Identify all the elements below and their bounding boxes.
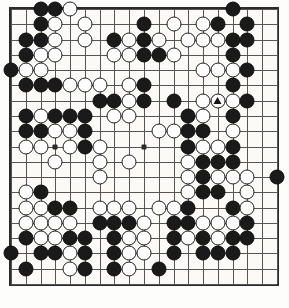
- white-stone[interactable]: [63, 246, 78, 261]
- black-stone[interactable]: [196, 246, 211, 261]
- white-stone[interactable]: [225, 124, 240, 139]
- black-stone[interactable]: [240, 215, 255, 230]
- black-stone[interactable]: [181, 108, 196, 123]
- black-stone[interactable]: [240, 63, 255, 78]
- black-stone[interactable]: [107, 261, 122, 276]
- black-stone[interactable]: [137, 17, 152, 32]
- white-stone[interactable]: [122, 231, 137, 246]
- black-stone[interactable]: [18, 47, 33, 62]
- white-stone[interactable]: [210, 32, 225, 47]
- black-stone[interactable]: [137, 93, 152, 108]
- black-stone[interactable]: [151, 47, 166, 62]
- white-stone[interactable]: [196, 215, 211, 230]
- white-stone[interactable]: [33, 215, 48, 230]
- black-stone[interactable]: [181, 139, 196, 154]
- white-stone[interactable]: [18, 215, 33, 230]
- black-stone[interactable]: [48, 2, 63, 17]
- white-stone[interactable]: [151, 200, 166, 215]
- black-stone[interactable]: [196, 154, 211, 169]
- black-stone[interactable]: [122, 215, 137, 230]
- white-stone[interactable]: [137, 215, 152, 230]
- black-stone[interactable]: [240, 231, 255, 246]
- white-stone[interactable]: [63, 215, 78, 230]
- black-stone[interactable]: [33, 78, 48, 93]
- black-stone[interactable]: [137, 32, 152, 47]
- white-stone[interactable]: [122, 108, 137, 123]
- black-stone[interactable]: [18, 78, 33, 93]
- white-stone[interactable]: [77, 32, 92, 47]
- white-stone[interactable]: [210, 139, 225, 154]
- black-stone[interactable]: [166, 215, 181, 230]
- white-stone[interactable]: [181, 185, 196, 200]
- black-stone[interactable]: [33, 246, 48, 261]
- black-stone[interactable]: [181, 200, 196, 215]
- black-stone[interactable]: [151, 261, 166, 276]
- black-stone[interactable]: [225, 32, 240, 47]
- white-stone[interactable]: [92, 139, 107, 154]
- black-stone[interactable]: [225, 2, 240, 17]
- black-stone[interactable]: [196, 124, 211, 139]
- black-stone[interactable]: [18, 32, 33, 47]
- white-stone[interactable]: [137, 246, 152, 261]
- white-stone[interactable]: [107, 47, 122, 62]
- black-stone[interactable]: [166, 246, 181, 261]
- white-stone[interactable]: [122, 93, 137, 108]
- white-stone[interactable]: [107, 200, 122, 215]
- black-stone[interactable]: [18, 261, 33, 276]
- white-stone[interactable]: [48, 17, 63, 32]
- white-stone[interactable]: [166, 17, 181, 32]
- white-stone[interactable]: [122, 261, 137, 276]
- white-stone[interactable]: [196, 93, 211, 108]
- white-stone[interactable]: [210, 170, 225, 185]
- black-stone[interactable]: [63, 108, 78, 123]
- white-stone[interactable]: [18, 200, 33, 215]
- white-stone[interactable]: [92, 78, 107, 93]
- black-stone[interactable]: [210, 185, 225, 200]
- white-stone[interactable]: [92, 200, 107, 215]
- black-stone[interactable]: [196, 170, 211, 185]
- black-stone[interactable]: [77, 261, 92, 276]
- black-stone[interactable]: [240, 93, 255, 108]
- black-stone[interactable]: [225, 231, 240, 246]
- white-stone[interactable]: [196, 139, 211, 154]
- black-stone[interactable]: [33, 32, 48, 47]
- white-stone[interactable]: [240, 200, 255, 215]
- white-stone[interactable]: [151, 32, 166, 47]
- white-stone[interactable]: [48, 32, 63, 47]
- white-stone[interactable]: [122, 200, 137, 215]
- white-stone[interactable]: [107, 108, 122, 123]
- go-board[interactable]: [9, 7, 279, 286]
- white-stone[interactable]: [48, 124, 63, 139]
- white-stone[interactable]: [77, 17, 92, 32]
- black-stone[interactable]: [210, 246, 225, 261]
- black-stone[interactable]: [33, 124, 48, 139]
- white-stone[interactable]: [166, 47, 181, 62]
- black-stone[interactable]: [92, 215, 107, 230]
- black-stone[interactable]: [33, 17, 48, 32]
- white-stone[interactable]: [181, 170, 196, 185]
- black-stone[interactable]: [166, 93, 181, 108]
- black-stone[interactable]: [107, 215, 122, 230]
- white-stone[interactable]: [48, 154, 63, 169]
- white-stone[interactable]: [151, 124, 166, 139]
- white-stone[interactable]: [48, 47, 63, 62]
- white-stone[interactable]: [166, 124, 181, 139]
- white-stone[interactable]: [166, 200, 181, 215]
- white-stone[interactable]: [225, 63, 240, 78]
- white-stone[interactable]: [122, 47, 137, 62]
- white-stone[interactable]: [181, 231, 196, 246]
- marked-white-stone[interactable]: [210, 93, 225, 108]
- white-stone[interactable]: [210, 63, 225, 78]
- white-stone[interactable]: [196, 32, 211, 47]
- white-stone[interactable]: [18, 185, 33, 200]
- black-stone[interactable]: [4, 246, 19, 261]
- white-stone[interactable]: [137, 231, 152, 246]
- white-stone[interactable]: [122, 154, 137, 169]
- white-stone[interactable]: [33, 139, 48, 154]
- black-stone[interactable]: [92, 93, 107, 108]
- white-stone[interactable]: [63, 139, 78, 154]
- white-stone[interactable]: [210, 215, 225, 230]
- white-stone[interactable]: [240, 185, 255, 200]
- black-stone[interactable]: [210, 154, 225, 169]
- white-stone[interactable]: [33, 108, 48, 123]
